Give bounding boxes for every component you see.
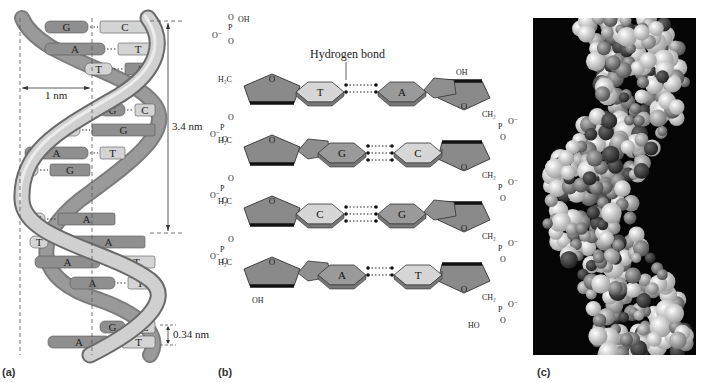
- svg-text:A: A: [83, 213, 91, 225]
- svg-text:C: C: [141, 104, 148, 116]
- pitch-measurement-label: 3.4 nm: [172, 120, 203, 132]
- double-helix-ribbon: GCATTAGCCGATCGTATAATATGCAT: [0, 0, 215, 383]
- panel-a-helix-diagram: GCATTAGCCGATCGTATAATATGCAT 1 nm 3.4 nm 0…: [0, 0, 215, 383]
- nucleotide-pair-row: OH₂COCH₂CGOPO⁻OPO⁻O: [210, 196, 518, 266]
- svg-text:H₂C: H₂C: [218, 258, 232, 267]
- nucleotide-pair-row: OH₂COCH₂ATPO⁻O: [218, 257, 518, 325]
- panel-label-b: (b): [218, 366, 232, 378]
- svg-text:A: A: [338, 269, 346, 281]
- svg-text:A: A: [105, 236, 113, 248]
- svg-text:O⁻: O⁻: [508, 178, 518, 187]
- space-filling-model-photo: [533, 18, 696, 355]
- panel-b-chemical-structure: OH₂COCH₂TAOPO⁻OPO⁻OOH₂COCH₂GCOPO⁻OPO⁻OOH…: [210, 0, 530, 383]
- svg-text:T: T: [135, 43, 142, 55]
- svg-text:C: C: [121, 21, 128, 33]
- svg-text:O: O: [228, 113, 234, 122]
- svg-text:P: P: [498, 183, 503, 192]
- hydrogen-bond-callout: Hydrogen bond: [310, 47, 385, 62]
- svg-text:O: O: [461, 101, 468, 111]
- panel-label-a: (a): [2, 366, 15, 378]
- svg-text:O: O: [228, 37, 234, 46]
- svg-text:O: O: [228, 13, 234, 22]
- svg-text:HO: HO: [468, 321, 480, 330]
- svg-text:O: O: [461, 284, 468, 294]
- nucleotide-pair-row: OH₂COCH₂TAOPO⁻OPO⁻O: [210, 74, 518, 144]
- svg-text:P: P: [220, 123, 225, 132]
- svg-text:T: T: [95, 63, 102, 75]
- svg-text:A: A: [398, 86, 406, 98]
- svg-text:O: O: [461, 223, 468, 233]
- svg-text:G: G: [398, 208, 406, 220]
- svg-text:OH: OH: [456, 68, 468, 77]
- base-pair: AT: [45, 43, 158, 55]
- svg-text:O: O: [269, 74, 276, 84]
- svg-text:P: P: [498, 122, 503, 131]
- svg-text:P: P: [228, 23, 233, 32]
- svg-text:G: G: [66, 164, 74, 176]
- svg-text:O: O: [500, 133, 506, 142]
- svg-text:O: O: [269, 135, 276, 145]
- svg-text:O: O: [461, 162, 468, 172]
- svg-text:T: T: [109, 147, 116, 159]
- space-filling-atoms: [533, 18, 696, 355]
- svg-text:O⁻: O⁻: [508, 300, 518, 309]
- svg-text:CH₂: CH₂: [482, 232, 496, 241]
- svg-text:A: A: [75, 336, 83, 348]
- svg-text:G: G: [120, 124, 128, 136]
- svg-text:O: O: [269, 196, 276, 206]
- svg-text:H₂C: H₂C: [218, 136, 232, 145]
- svg-text:A: A: [53, 147, 61, 159]
- svg-text:T: T: [135, 336, 142, 348]
- svg-text:G: G: [63, 21, 71, 33]
- panel-label-c: (c): [537, 366, 550, 378]
- svg-text:C: C: [414, 147, 421, 159]
- svg-text:T: T: [415, 269, 422, 281]
- svg-text:CH₂: CH₂: [482, 171, 496, 180]
- svg-text:T: T: [317, 86, 324, 98]
- svg-text:O: O: [500, 194, 506, 203]
- base-pair: GC: [45, 21, 150, 33]
- svg-text:OH: OH: [252, 296, 264, 305]
- svg-text:A: A: [89, 277, 97, 289]
- svg-text:G: G: [338, 147, 346, 159]
- svg-text:O: O: [269, 257, 276, 267]
- svg-text:H₂C: H₂C: [218, 197, 232, 206]
- svg-text:O⁻: O⁻: [508, 117, 518, 126]
- nucleotide-pair-row: OH₂COCH₂GCOPO⁻OPO⁻O: [210, 135, 518, 205]
- svg-text:O: O: [228, 174, 234, 183]
- svg-text:A: A: [71, 43, 79, 55]
- svg-text:P: P: [220, 184, 225, 193]
- svg-text:P: P: [220, 245, 225, 254]
- svg-text:O: O: [500, 255, 506, 264]
- rise-measurement-label: 0.34 nm: [173, 328, 209, 340]
- svg-text:O: O: [500, 316, 506, 325]
- width-measurement-label: 1 nm: [45, 89, 67, 101]
- svg-text:C: C: [316, 208, 323, 220]
- svg-text:H₂C: H₂C: [218, 75, 232, 84]
- svg-text:A: A: [64, 256, 72, 268]
- svg-text:P: P: [498, 305, 503, 314]
- svg-text:OH: OH: [238, 15, 250, 24]
- svg-text:P: P: [498, 244, 503, 253]
- svg-text:O⁻: O⁻: [508, 239, 518, 248]
- svg-text:O: O: [228, 235, 234, 244]
- svg-text:O⁻: O⁻: [212, 31, 222, 40]
- svg-text:CH₂: CH₂: [482, 110, 496, 119]
- svg-text:CH₂: CH₂: [482, 293, 496, 302]
